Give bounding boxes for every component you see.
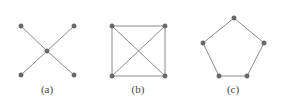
graph-edge [234, 18, 264, 43]
graph-node [72, 73, 76, 77]
figure-a-label: (a) [41, 83, 54, 96]
graph-figures: (a) (b) (c) [0, 0, 283, 105]
graph-edge [203, 18, 234, 43]
graph-node [201, 41, 205, 45]
figure-a-star-graph [19, 24, 76, 77]
graph-node [163, 74, 167, 78]
figure-c-cycle-graph [201, 16, 266, 78]
graph-node [72, 24, 76, 28]
graph-edge [203, 43, 219, 76]
graph-edge [247, 43, 264, 76]
graph-node [19, 24, 23, 28]
graph-node [163, 24, 167, 28]
figure-b-complete-graph [110, 24, 167, 78]
graph-node [45, 49, 49, 53]
graph-node [217, 74, 221, 78]
graph-edge [21, 26, 47, 51]
graph-node [245, 74, 249, 78]
graph-node [262, 41, 266, 45]
graph-node [19, 73, 23, 77]
graph-node [232, 16, 236, 20]
graph-edge [47, 26, 74, 51]
graph-edge [47, 51, 74, 75]
graph-edge [21, 51, 47, 75]
figure-b-label: (b) [132, 83, 145, 96]
figure-c-label: (c) [227, 83, 240, 96]
graph-node [110, 74, 114, 78]
graph-node [110, 24, 114, 28]
